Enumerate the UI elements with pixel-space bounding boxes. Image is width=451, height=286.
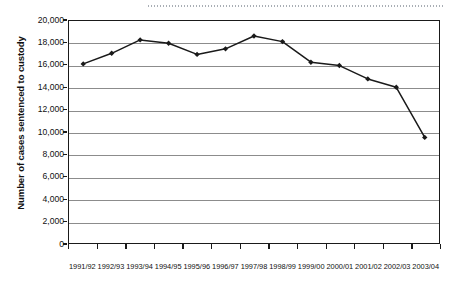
data-point-marker: [251, 33, 256, 38]
y-axis-tick-mark: [63, 109, 67, 110]
y-axis-tick-label: 20,000: [20, 16, 64, 25]
y-axis-tick-label: 4,000: [20, 195, 64, 204]
data-point-marker: [223, 46, 228, 51]
y-axis-tick-label: 0: [20, 240, 64, 249]
x-axis-tick-label: 2001/02: [354, 262, 383, 272]
x-axis-tick-mark: [211, 244, 212, 249]
x-axis-tick-mark: [68, 244, 69, 249]
x-axis-tick-label: 1993/94: [125, 262, 154, 272]
x-axis-tick-label: 1995/96: [182, 262, 211, 272]
data-point-marker: [365, 76, 370, 81]
x-axis-tick-mark: [411, 244, 412, 249]
y-axis-tick-mark: [63, 243, 67, 244]
data-point-marker: [194, 52, 199, 57]
x-axis-tick-mark: [97, 244, 98, 249]
x-axis-tick-mark: [383, 244, 384, 249]
x-axis-tick-label: 1992/93: [97, 262, 126, 272]
x-axis-tick-label: 2000/01: [326, 262, 355, 272]
x-axis-tick-label: 1996/97: [211, 262, 240, 272]
x-axis-tick-mark: [240, 244, 241, 249]
chart-figure: Number of cases sentenced to custody 02,…: [0, 0, 451, 286]
y-axis-tick-label: 12,000: [20, 105, 64, 114]
x-axis-tick-mark: [125, 244, 126, 249]
x-axis-tick-mark: [268, 244, 269, 249]
x-axis-tick-mark: [154, 244, 155, 249]
x-axis-tick-mark: [297, 244, 298, 249]
y-axis-tick-labels: 02,0004,0006,0008,00010,00012,00014,0001…: [18, 20, 64, 244]
x-axis-tick-label: 2002/03: [383, 262, 412, 272]
x-axis-tick-mark: [326, 244, 327, 249]
y-axis-tick-mark: [63, 131, 67, 132]
y-axis-tick-mark: [63, 176, 67, 177]
y-axis-tick-label: 16,000: [20, 60, 64, 69]
y-axis-tick-mark: [63, 154, 67, 155]
y-axis-tick-label: 6,000: [20, 172, 64, 181]
x-axis-tick-marks: [68, 244, 440, 250]
data-point-marker: [337, 63, 342, 68]
plot-area: [68, 20, 440, 244]
x-axis-tick-mark: [182, 244, 183, 249]
data-point-marker: [81, 61, 86, 66]
y-axis-tick-mark: [63, 87, 67, 88]
line-series: [69, 21, 439, 244]
y-axis-tick-label: 2,000: [20, 217, 64, 226]
y-axis-tick-mark: [63, 221, 67, 222]
x-axis-tick-label: 1994/95: [154, 262, 183, 272]
y-axis-tick-mark: [63, 19, 67, 20]
x-axis-tick-label: 1991/92: [68, 262, 97, 272]
top-dotted-rule: [148, 5, 444, 7]
y-axis-tick-label: 8,000: [20, 150, 64, 159]
x-axis-tick-label: 1999/00: [297, 262, 326, 272]
y-axis-tick-mark: [63, 42, 67, 43]
y-axis-tick-mark: [63, 64, 67, 65]
x-axis-tick-mark: [354, 244, 355, 249]
x-axis-tick-label: 1997/98: [240, 262, 269, 272]
x-axis-tick-label: 2003/04: [411, 262, 440, 272]
y-axis-tick-label: 10,000: [20, 128, 64, 137]
data-point-marker: [109, 51, 114, 56]
x-axis-tick-mark: [440, 244, 441, 249]
y-axis-tick-label: 14,000: [20, 83, 64, 92]
y-axis-tick-label: 18,000: [20, 38, 64, 47]
x-axis-tick-labels: 1991/921992/931993/941994/951995/961996/…: [68, 262, 440, 274]
data-point-marker: [137, 37, 142, 42]
y-axis-tick-mark: [63, 199, 67, 200]
data-point-marker: [166, 41, 171, 46]
x-axis-tick-label: 1998/99: [268, 262, 297, 272]
